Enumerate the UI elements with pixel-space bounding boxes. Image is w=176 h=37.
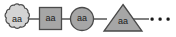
node-square[interactable]: aa — [40, 8, 62, 30]
node-cloud[interactable]: aa — [5, 4, 29, 28]
diagram-canvas: aa aa aa aa — [0, 0, 176, 37]
ellipsis-group — [151, 18, 170, 21]
ellipsis-dot-2 — [159, 18, 162, 21]
node-triangle[interactable]: aa — [104, 5, 142, 32]
ellipsis-dot-3 — [167, 18, 170, 21]
node-circle-label: aa — [77, 13, 87, 23]
diagram-svg: aa aa aa aa — [0, 0, 176, 37]
ellipsis-dot-1 — [151, 18, 154, 21]
node-square-label: aa — [45, 13, 55, 23]
node-cloud-label: aa — [12, 14, 22, 24]
node-circle[interactable]: aa — [71, 8, 94, 31]
node-triangle-label: aa — [118, 16, 128, 26]
